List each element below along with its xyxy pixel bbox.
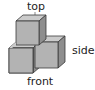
label-side: side bbox=[72, 45, 95, 56]
label-front: front bbox=[27, 76, 53, 87]
cube-bottom-left-front-face-overlay bbox=[9, 48, 33, 73]
cube-top-front-face bbox=[16, 21, 39, 45]
cube-right-side-face bbox=[58, 36, 65, 68]
cube-top bbox=[16, 15, 46, 45]
cube-diagram: top side front bbox=[0, 0, 95, 90]
cube-right-front-face bbox=[35, 42, 58, 68]
label-top: top bbox=[27, 1, 45, 12]
